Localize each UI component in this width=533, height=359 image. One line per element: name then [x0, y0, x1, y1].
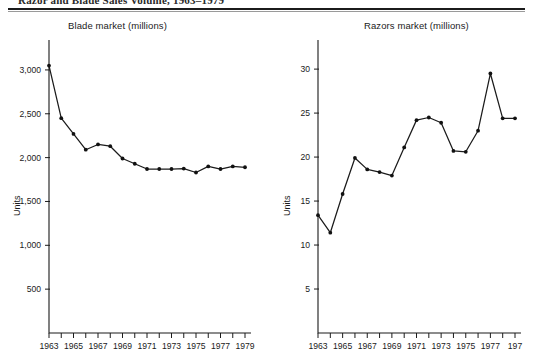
x-tick-label: 1967	[88, 341, 107, 351]
data-point	[427, 116, 431, 120]
x-tick-label: 1971	[407, 341, 426, 351]
figure-caption-text: Razor and Blade Sales Volume, 1963–1979	[18, 0, 224, 6]
data-point	[121, 157, 125, 161]
data-point	[84, 148, 88, 152]
x-tick-label: 1975	[456, 341, 475, 351]
y-tick-label: 1,500	[19, 196, 41, 206]
axis-lines	[318, 40, 521, 333]
data-point	[378, 170, 382, 174]
data-point	[194, 171, 198, 175]
x-tick-label: 1969	[382, 341, 401, 351]
data-point	[452, 149, 456, 153]
data-point	[157, 167, 161, 171]
data-point	[133, 162, 137, 166]
data-point	[170, 167, 174, 171]
x-tick-label: 1965	[64, 341, 83, 351]
x-tick-label: 1967	[358, 341, 377, 351]
x-tick-label: 1977	[211, 341, 230, 351]
data-point	[402, 146, 406, 150]
data-point	[476, 129, 480, 133]
x-tick-label: 1969	[113, 341, 132, 351]
data-point	[316, 213, 320, 217]
data-point	[72, 132, 76, 136]
figure-page: Razor and Blade Sales Volume, 1963–1979 …	[0, 0, 533, 359]
data-point	[182, 167, 186, 171]
y-tick-label: 15	[300, 196, 310, 206]
data-line	[49, 66, 245, 173]
y-tick-label: 30	[300, 64, 310, 74]
y-tick-label: 5	[305, 284, 310, 294]
header-rule-secondary	[8, 11, 525, 12]
x-tick-label: 197	[508, 341, 523, 351]
x-tick-label: 1963	[39, 341, 58, 351]
x-tick-label: 1973	[162, 341, 181, 351]
data-point	[219, 167, 223, 171]
x-tick-label: 1979	[235, 341, 254, 351]
data-point	[59, 116, 63, 120]
data-point	[231, 164, 235, 168]
chart-panel-blade: Blade market (millions) Units 5001,0001,…	[0, 16, 268, 359]
data-point	[415, 118, 419, 122]
y-tick-label: 1,000	[19, 240, 41, 250]
y-tick-label: 10	[300, 240, 310, 250]
header-rule	[8, 8, 525, 10]
data-point	[513, 116, 517, 120]
data-point	[501, 116, 505, 120]
figure-caption-clipped: Razor and Blade Sales Volume, 1963–1979	[0, 0, 533, 6]
data-point	[243, 165, 247, 169]
y-tick-label: 3,000	[19, 65, 41, 75]
y-tick-label: 25	[300, 108, 310, 118]
data-point	[96, 143, 100, 147]
data-point	[145, 167, 149, 171]
data-line	[318, 74, 515, 233]
plot-area-razors: 5101520253019631965196719691971197319751…	[268, 16, 533, 359]
data-point	[488, 72, 492, 76]
y-tick-label: 20	[300, 152, 310, 162]
data-point	[353, 156, 357, 160]
x-tick-label: 1973	[432, 341, 451, 351]
plot-area-blade: 5001,0001,5002,0002,5003,000196319651967…	[0, 16, 268, 359]
data-point	[439, 121, 443, 125]
data-point	[365, 167, 369, 171]
data-point	[206, 164, 210, 168]
chart-svg-blade: 5001,0001,5002,0002,5003,000196319651967…	[0, 16, 268, 359]
chart-svg-razors: 5101520253019631965196719691971197319751…	[268, 16, 533, 359]
data-point	[108, 144, 112, 148]
y-tick-label: 2,000	[19, 153, 41, 163]
data-point	[464, 150, 468, 154]
x-tick-label: 1971	[137, 341, 156, 351]
y-tick-label: 500	[27, 284, 42, 294]
data-point	[47, 64, 51, 68]
data-point	[341, 192, 345, 196]
data-point	[328, 231, 332, 235]
x-tick-label: 1975	[186, 341, 205, 351]
chart-panel-razors: Razors market (millions) Units 510152025…	[268, 16, 533, 359]
data-point	[390, 174, 394, 178]
y-tick-label: 2,500	[19, 109, 41, 119]
x-tick-label: 1977	[481, 341, 500, 351]
x-tick-label: 1965	[333, 341, 352, 351]
axis-lines	[49, 40, 251, 333]
x-tick-label: 1963	[308, 341, 327, 351]
